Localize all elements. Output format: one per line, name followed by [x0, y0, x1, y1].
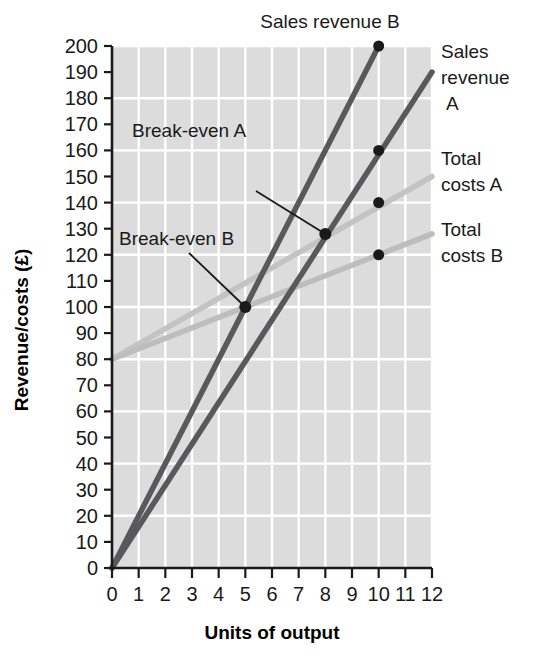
legend-total-costs-a: Total costs A: [441, 148, 503, 195]
data-point-total-costs-a-10: [373, 197, 384, 208]
y-tick-label-160: 160: [65, 139, 98, 161]
y-tick-label-200: 200: [65, 35, 98, 57]
legend-sales-revenue-a-line2: revenue: [441, 67, 510, 88]
legend-total-costs-b: Total costs B: [441, 219, 503, 266]
y-tick-label-80: 80: [76, 348, 98, 370]
y-tick-label-0: 0: [87, 557, 98, 579]
y-tick-label-190: 190: [65, 61, 98, 83]
y-tick-label-110: 110: [66, 270, 98, 292]
legend-total-costs-a-line2: costs A: [441, 174, 503, 195]
y-tick-label-100: 100: [65, 296, 98, 318]
data-point-sales-revenue-b-10: [373, 41, 384, 52]
x-tick-label-3: 3: [186, 583, 197, 605]
y-tick-label-130: 130: [65, 218, 98, 240]
legend-total-costs-b-line2: costs B: [441, 245, 503, 266]
y-tick-label-20: 20: [76, 505, 98, 527]
x-tick-label-6: 6: [266, 583, 277, 605]
y-tick-label-50: 50: [76, 427, 98, 449]
y-axis-ticks: [104, 46, 112, 568]
y-tick-label-180: 180: [65, 87, 98, 109]
x-axis-title: Units of output: [204, 622, 340, 643]
y-tick-label-10: 10: [76, 531, 98, 553]
chart-canvas: 200 190 180 170 160 150 140 130 120 110 …: [0, 0, 538, 660]
annotation-break-even-b: Break-even B: [119, 228, 234, 249]
legend-total-costs-a-line1: Total: [441, 148, 481, 169]
breakeven-chart: 200 190 180 170 160 150 140 130 120 110 …: [0, 0, 538, 660]
annotation-break-even-a: Break-even A: [132, 120, 246, 141]
y-tick-label-170: 170: [65, 113, 98, 135]
y-axis-title: Revenue/costs (£): [11, 249, 32, 412]
y-tick-label-70: 70: [76, 374, 98, 396]
data-point-sales-revenue-a-10: [373, 145, 384, 156]
x-tick-label-12: 12: [421, 583, 443, 605]
y-tick-label-140: 140: [65, 192, 98, 214]
y-tick-label-40: 40: [76, 453, 98, 475]
y-tick-label-30: 30: [76, 479, 98, 501]
x-tick-label-1: 1: [133, 583, 144, 605]
y-axis-tick-labels: 200 190 180 170 160 150 140 130 120 110 …: [65, 35, 98, 579]
x-tick-label-5: 5: [240, 583, 251, 605]
x-tick-label-4: 4: [213, 583, 224, 605]
x-tick-label-0: 0: [106, 583, 117, 605]
x-tick-label-7: 7: [293, 583, 304, 605]
legend-total-costs-b-line1: Total: [441, 219, 481, 240]
legend-sales-revenue-a-line1: Sales: [441, 41, 489, 62]
y-tick-label-120: 120: [65, 244, 98, 266]
x-tick-label-8: 8: [320, 583, 331, 605]
legend-sales-revenue-a-line3: A: [446, 93, 459, 114]
x-tick-label-9: 9: [346, 583, 357, 605]
x-tick-label-10: 10: [368, 583, 390, 605]
x-axis-tick-labels: 0 1 2 3 4 5 6 7 8 9 10 11 12: [106, 583, 443, 605]
x-tick-label-2: 2: [160, 583, 171, 605]
series-label-sales-revenue-b: Sales revenue B: [260, 11, 399, 32]
x-axis-ticks: [112, 568, 432, 578]
x-tick-label-11: 11: [395, 583, 416, 605]
y-tick-label-150: 150: [65, 166, 98, 188]
legend-sales-revenue-a: Sales revenue A: [441, 41, 510, 114]
data-point-total-costs-b-10: [373, 249, 384, 260]
y-tick-label-60: 60: [76, 400, 98, 422]
y-tick-label-90: 90: [76, 322, 98, 344]
